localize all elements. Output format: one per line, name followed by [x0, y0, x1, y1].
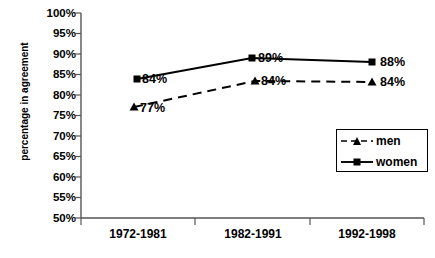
y-axis-ticks [75, 13, 81, 218]
series-men-line [134, 81, 372, 107]
legend-swatch-men [340, 134, 374, 148]
data-label-women: 89% [258, 51, 283, 65]
x-tick-label: 1982-1991 [224, 227, 281, 241]
legend-item-women[interactable]: women [337, 151, 427, 172]
series-women-marker [369, 59, 376, 66]
legend-item-men[interactable]: men [337, 130, 427, 151]
legend-label-men: men [376, 134, 401, 148]
legend-swatch-women [340, 155, 374, 169]
x-tick-label: 1992-1998 [338, 227, 395, 241]
x-axis-ticks [81, 218, 424, 225]
data-label-men: 84% [380, 75, 405, 89]
data-label-men: 84% [261, 74, 286, 88]
legend-label-women: women [376, 155, 417, 169]
data-label-women: 84% [142, 72, 167, 86]
x-tick-label: 1972-1981 [109, 227, 166, 241]
data-label-men: 77% [140, 101, 165, 115]
data-label-women: 88% [380, 55, 405, 69]
series-women-marker [249, 55, 256, 62]
series-women-marker [134, 76, 141, 83]
line-chart: percentage in agreement 100% 95% 90% 85%… [0, 0, 435, 258]
series-men-marker [368, 78, 377, 86]
legend: men women [336, 129, 428, 172]
